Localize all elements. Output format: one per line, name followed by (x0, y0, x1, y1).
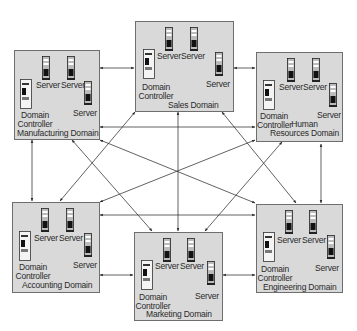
server-label: Server (180, 262, 204, 271)
server-label: Server (155, 262, 179, 271)
server-icon (329, 83, 337, 107)
server-icon (84, 233, 92, 257)
dc-label: DomainController (257, 265, 293, 283)
domain-sales: DomainController Server Server Server Sa… (135, 21, 234, 112)
domain-name: HumanResources Domain (267, 120, 342, 138)
server-icon (187, 238, 195, 262)
server-label: Server (34, 234, 58, 243)
domain-name: Accounting Domain (22, 281, 92, 290)
server-icon (165, 27, 173, 51)
server-label: Server (157, 52, 181, 61)
server-label: Server (73, 109, 97, 118)
server-icon (309, 210, 317, 234)
server-icon (163, 238, 171, 262)
domain-trust-diagram: DomainController Server Server Server Ma… (0, 0, 357, 331)
server-icon (215, 52, 223, 76)
domain-accounting: DomainController Server Server Server Ac… (12, 202, 100, 293)
server-icon (312, 58, 320, 82)
server-label: Server (302, 236, 326, 245)
dc-label: DomainController (17, 111, 53, 129)
dc-label: DomainController (138, 83, 174, 101)
server-icon (285, 210, 293, 234)
domain-human-resources: DomainController Server Server Server Hu… (256, 52, 343, 142)
server-icon (67, 56, 75, 80)
server-icon (42, 56, 50, 80)
domain-name: Engineering Domain (263, 283, 336, 292)
server-label: Server (59, 234, 83, 243)
server-icon (207, 261, 215, 285)
server-label: Server (73, 261, 97, 270)
domain-manufacturing: DomainController Server Server Server Ma… (14, 50, 100, 140)
server-label: Server (36, 81, 60, 90)
domain-controller-icon (20, 79, 32, 109)
dc-label: DomainController (15, 263, 51, 281)
domain-controller-icon (143, 49, 155, 79)
server-icon (41, 208, 49, 232)
server-icon (66, 208, 74, 232)
server-label: Server (206, 80, 230, 89)
server-label: Server (181, 52, 205, 61)
domain-controller-icon (263, 80, 275, 110)
server-label: Server (315, 264, 339, 273)
server-label: Server (317, 111, 341, 120)
server-icon (287, 58, 295, 82)
domain-name: Sales Domain (168, 101, 219, 110)
server-icon (84, 81, 92, 105)
domain-marketing: DomainController Server Server Server Ma… (134, 232, 223, 321)
domain-controller-icon (19, 231, 31, 261)
domain-name: Marketing Domain (146, 310, 212, 319)
domain-controller-icon (141, 260, 153, 290)
domain-controller-icon (263, 232, 275, 262)
server-icon (327, 235, 335, 259)
server-label: Server (195, 292, 219, 301)
server-label: Server (277, 236, 301, 245)
server-icon (190, 27, 198, 51)
domain-engineering: DomainController Server Server Server En… (256, 204, 343, 293)
server-label: Server (279, 83, 303, 92)
server-label: Server (61, 81, 85, 90)
domain-name: Manufacturing Domain (17, 129, 99, 138)
server-label: Server (303, 83, 327, 92)
